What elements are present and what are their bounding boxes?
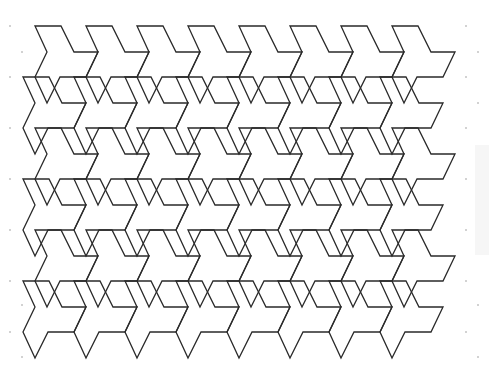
y-tile <box>74 77 137 154</box>
grid-dot <box>9 25 11 27</box>
y-tile <box>278 281 341 358</box>
grid-dot <box>477 304 479 306</box>
grid-dot <box>9 229 11 231</box>
y-tile <box>227 77 290 154</box>
y-tile <box>239 128 302 205</box>
y-tile <box>176 77 239 154</box>
y-tile <box>392 128 455 205</box>
grid-dot <box>465 280 467 282</box>
y-tile <box>23 179 86 256</box>
y-tile <box>35 230 98 307</box>
y-tile <box>86 26 149 103</box>
grid-dot <box>21 304 23 306</box>
grid-dot <box>21 51 23 53</box>
y-tile <box>35 26 98 103</box>
y-tile <box>137 128 200 205</box>
grid-dot <box>465 229 467 231</box>
y-tile <box>380 179 443 256</box>
tile-layer <box>23 26 455 358</box>
y-tile <box>74 281 137 358</box>
grid-dot <box>465 178 467 180</box>
y-tile <box>329 179 392 256</box>
grid-dot <box>9 178 11 180</box>
y-tile <box>176 281 239 358</box>
y-tile <box>125 281 188 358</box>
y-tile <box>341 128 404 205</box>
y-tile <box>329 77 392 154</box>
grid-dot <box>21 356 23 358</box>
grid-dot <box>9 76 11 78</box>
y-tile <box>23 77 86 154</box>
y-tile <box>137 26 200 103</box>
y-tile <box>188 230 251 307</box>
tessellation-canvas <box>0 0 489 379</box>
y-tile <box>392 26 455 103</box>
grid-dot <box>477 356 479 358</box>
y-tile <box>278 77 341 154</box>
grid-dot <box>477 102 479 104</box>
y-tile <box>239 26 302 103</box>
y-tile <box>23 281 86 358</box>
y-tile <box>125 77 188 154</box>
y-tile <box>329 281 392 358</box>
grid-dot <box>465 127 467 129</box>
grid-dot <box>9 331 11 333</box>
y-tile <box>290 230 353 307</box>
y-tile <box>176 179 239 256</box>
y-tile <box>380 281 443 358</box>
y-tile <box>227 281 290 358</box>
y-tile <box>35 128 98 205</box>
y-tile <box>86 128 149 205</box>
grid-dot <box>9 280 11 282</box>
y-tile <box>227 179 290 256</box>
y-tile <box>239 230 302 307</box>
y-tile <box>380 77 443 154</box>
y-tile <box>125 179 188 256</box>
y-tile <box>341 26 404 103</box>
grid-dot <box>465 331 467 333</box>
grid-dot <box>465 25 467 27</box>
y-tile <box>392 230 455 307</box>
y-tile <box>290 128 353 205</box>
y-tile <box>137 230 200 307</box>
grid-dot <box>465 76 467 78</box>
y-tile <box>74 179 137 256</box>
y-tile <box>86 230 149 307</box>
grid-dot <box>9 127 11 129</box>
y-tile <box>341 230 404 307</box>
grid-dot <box>477 51 479 53</box>
y-tile <box>188 128 251 205</box>
y-tile <box>290 26 353 103</box>
y-tile <box>278 179 341 256</box>
y-tile <box>188 26 251 103</box>
